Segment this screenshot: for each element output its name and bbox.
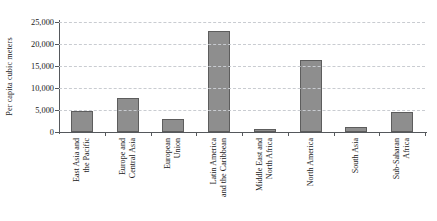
gridline [59, 66, 425, 67]
bar-slot [196, 22, 242, 132]
bar[interactable] [391, 112, 413, 132]
category-label-line: Union [173, 138, 183, 169]
x-axis-category-labels: East Asia andthe PacificEurope andCentra… [59, 138, 425, 220]
x-axis-category-label: South Asia [345, 138, 367, 220]
plot-area [59, 22, 425, 132]
bar[interactable] [71, 111, 93, 132]
x-axis-category-label: Sub-SaharanAfrica [391, 138, 413, 220]
x-axis-tick-mark [425, 132, 426, 136]
bar[interactable] [345, 127, 367, 132]
x-axis-tick-mark [105, 132, 106, 136]
x-axis-category-label: Middle East andNorth Africa [254, 138, 276, 220]
gridline [59, 44, 425, 45]
category-label-line: Latin America [209, 138, 218, 185]
category-label-line: Sub-Saharan [392, 138, 401, 179]
x-axis-category-label: EuropeanUnion [162, 138, 184, 220]
bar[interactable] [254, 129, 276, 132]
y-axis-tick-label: 10,000 [31, 84, 54, 93]
bar[interactable] [208, 31, 230, 132]
y-axis-title-text: Per capita cubic meters [5, 37, 14, 115]
x-axis-tick-mark [151, 132, 152, 136]
category-label-line: the Pacific [82, 138, 92, 182]
bar-series [59, 22, 425, 132]
category-label-line: Europe and [118, 138, 127, 175]
category-label-line: Africa [402, 138, 412, 179]
x-axis-category-label: Europe andCentral Asia [117, 138, 139, 220]
category-label-line: Central Asia [128, 138, 138, 178]
bar-slot [288, 22, 334, 132]
y-axis-tick-label: 25,000 [31, 18, 54, 27]
y-axis-tick-label: 0 [50, 128, 54, 137]
gridline [59, 88, 425, 89]
gridline [59, 110, 425, 111]
category-label-line: European [163, 138, 172, 169]
category-label-line: Middle East and [255, 138, 264, 191]
x-axis-tick-mark [288, 132, 289, 136]
x-axis-tick-mark [334, 132, 335, 136]
x-axis-tick-mark [196, 132, 197, 136]
bar-slot [379, 22, 425, 132]
y-axis-tick-mark [55, 132, 59, 133]
x-axis-category-label: North America [300, 138, 322, 220]
y-axis-tick-labels: 05,00010,00015,00020,00025,000 [14, 0, 58, 221]
y-axis-tick-label: 15,000 [31, 62, 54, 71]
x-axis-category-label: Latin Americaand the Caribbean [208, 138, 230, 220]
bar[interactable] [300, 60, 322, 132]
bar-slot [105, 22, 151, 132]
y-axis-tick-label: 5,000 [35, 106, 54, 115]
bar-slot [151, 22, 197, 132]
category-label-line: North Africa [265, 138, 275, 191]
y-axis-tick-label: 20,000 [31, 40, 54, 49]
category-label-line: and the Caribbean [219, 138, 229, 197]
category-label-line: North America [306, 138, 315, 186]
bar-slot [242, 22, 288, 132]
x-axis-category-label: East Asia andthe Pacific [71, 138, 93, 220]
x-axis-tick-mark [242, 132, 243, 136]
category-label-line: East Asia and [72, 138, 81, 182]
gridline [59, 22, 425, 23]
bar-slot [59, 22, 105, 132]
bar-chart: Per capita cubic meters 05,00010,00015,0… [0, 0, 437, 221]
x-axis-tick-mark [379, 132, 380, 136]
category-label-line: South Asia [351, 138, 360, 173]
bar-slot [334, 22, 380, 132]
bar[interactable] [117, 98, 139, 132]
bar[interactable] [162, 119, 184, 132]
